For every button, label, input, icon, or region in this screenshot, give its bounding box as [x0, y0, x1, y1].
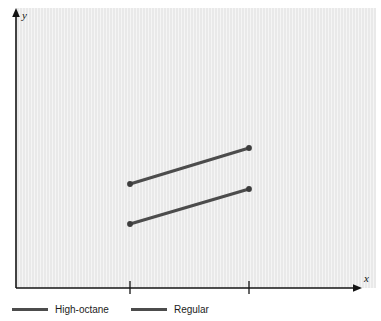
- x-axis-arrowhead: [353, 284, 362, 292]
- y-axis-arrowhead: [12, 8, 20, 17]
- x-axis: [16, 284, 362, 292]
- series-high-octane-point-2: [246, 145, 252, 151]
- series-regular-point-2: [246, 186, 252, 192]
- series-regular-line: [130, 189, 249, 224]
- legend-item-high-octane[interactable]: High-octane: [12, 299, 109, 319]
- series-high-octane: [127, 145, 252, 187]
- y-axis: [12, 8, 20, 288]
- series-high-octane-line: [130, 148, 249, 184]
- legend-swatch-regular-icon: [131, 308, 167, 311]
- series-high-octane-point-1: [127, 181, 133, 187]
- legend-label-high-octane: High-octane: [55, 304, 109, 315]
- chart-figure: y x High-octane Regular: [0, 0, 381, 321]
- series-regular-point-1: [127, 221, 133, 227]
- legend-label-regular: Regular: [174, 304, 209, 315]
- y-axis-label: y: [22, 9, 27, 21]
- legend-swatch-high-octane-icon: [12, 308, 48, 311]
- legend-item-regular[interactable]: Regular: [131, 299, 209, 319]
- chart-legend: High-octane Regular: [0, 299, 381, 319]
- plot-canvas: [0, 0, 381, 321]
- x-axis-label: x: [364, 272, 369, 284]
- series-regular: [127, 186, 252, 227]
